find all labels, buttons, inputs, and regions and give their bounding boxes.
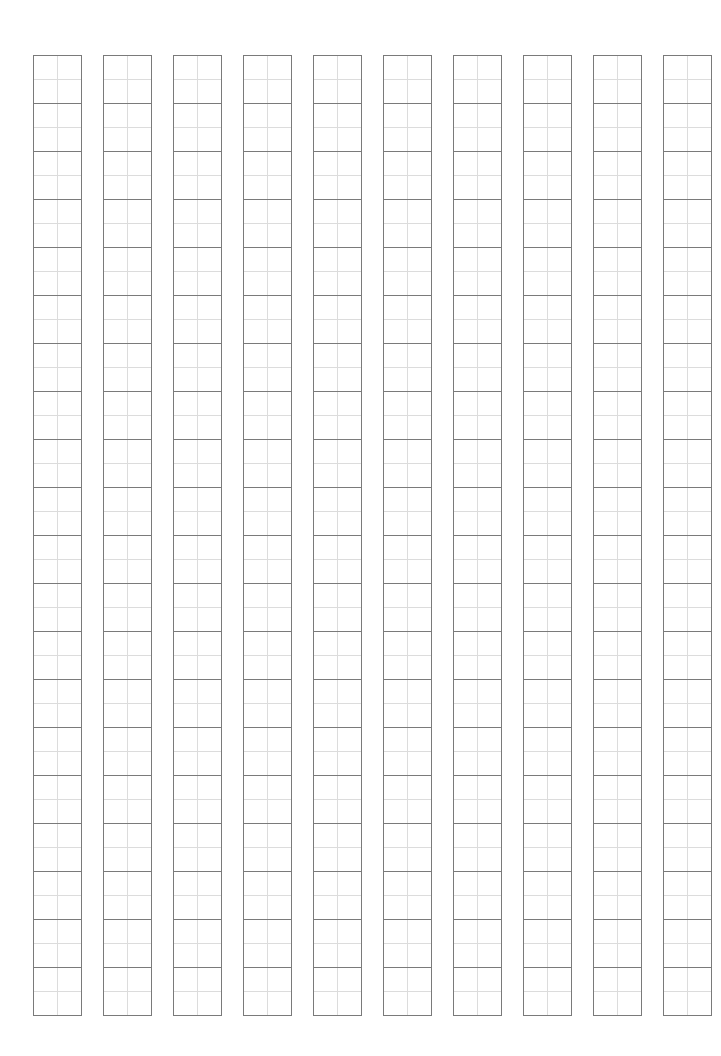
grid-cell — [593, 967, 642, 1016]
grid-cell — [523, 535, 572, 584]
grid-cell — [523, 343, 572, 392]
grid-cell — [383, 631, 432, 680]
grid-cell — [173, 631, 222, 680]
grid-cell — [173, 487, 222, 536]
grid-cell — [523, 871, 572, 920]
grid-cell — [173, 967, 222, 1016]
grid-cell — [383, 103, 432, 152]
grid-cell — [33, 199, 82, 248]
grid-cell — [383, 439, 432, 488]
grid-cell — [243, 247, 292, 296]
grid-cell — [593, 247, 642, 296]
grid-cell — [453, 823, 502, 872]
grid-cell — [663, 439, 712, 488]
grid-cell — [313, 679, 362, 728]
grid-cell — [453, 295, 502, 344]
grid-cell — [663, 679, 712, 728]
grid-cell — [103, 727, 152, 776]
grid-cell — [103, 679, 152, 728]
grid-cell — [383, 583, 432, 632]
grid-cell — [243, 295, 292, 344]
grid-cell — [663, 871, 712, 920]
grid-cell — [313, 583, 362, 632]
grid-cell — [593, 295, 642, 344]
grid-cell — [593, 487, 642, 536]
grid-cell — [523, 919, 572, 968]
grid-cell — [523, 823, 572, 872]
grid-cell — [383, 775, 432, 824]
grid-cell — [383, 679, 432, 728]
grid-column-5 — [313, 55, 361, 1016]
grid-cell — [243, 55, 292, 104]
grid-cell — [593, 823, 642, 872]
grid-cell — [593, 871, 642, 920]
grid-cell — [453, 487, 502, 536]
grid-cell — [313, 727, 362, 776]
grid-cell — [173, 55, 222, 104]
grid-cell — [173, 295, 222, 344]
grid-cell — [243, 631, 292, 680]
grid-cell — [103, 295, 152, 344]
grid-cell — [103, 55, 152, 104]
grid-cell — [523, 583, 572, 632]
grid-cell — [243, 583, 292, 632]
grid-cell — [593, 439, 642, 488]
grid-cell — [33, 439, 82, 488]
grid-cell — [243, 391, 292, 440]
grid-cell — [173, 919, 222, 968]
grid-cell — [243, 103, 292, 152]
grid-cell — [103, 919, 152, 968]
grid-cell — [383, 295, 432, 344]
grid-cell — [663, 103, 712, 152]
grid-cell — [523, 55, 572, 104]
grid-cell — [663, 343, 712, 392]
grid-cell — [33, 295, 82, 344]
grid-cell — [313, 919, 362, 968]
grid-cell — [453, 631, 502, 680]
grid-cell — [593, 919, 642, 968]
grid-column-10 — [663, 55, 711, 1016]
grid-cell — [243, 343, 292, 392]
grid-cell — [243, 199, 292, 248]
grid-cell — [243, 871, 292, 920]
grid-cell — [593, 151, 642, 200]
grid-cell — [453, 343, 502, 392]
grid-cell — [383, 823, 432, 872]
grid-cell — [173, 583, 222, 632]
grid-cell — [383, 343, 432, 392]
grid-cell — [523, 295, 572, 344]
grid-cell — [103, 343, 152, 392]
grid-cell — [313, 247, 362, 296]
grid-cell — [243, 439, 292, 488]
grid-cell — [663, 55, 712, 104]
grid-cell — [383, 919, 432, 968]
grid-cell — [173, 391, 222, 440]
grid-cell — [593, 631, 642, 680]
grid-column-9 — [593, 55, 641, 1016]
grid-cell — [383, 871, 432, 920]
grid-cell — [173, 247, 222, 296]
grid-cell — [453, 103, 502, 152]
grid-column-2 — [103, 55, 151, 1016]
grid-cell — [33, 919, 82, 968]
grid-cell — [523, 103, 572, 152]
grid-cell — [173, 199, 222, 248]
grid-cell — [453, 919, 502, 968]
grid-cell — [313, 871, 362, 920]
grid-cell — [523, 439, 572, 488]
grid-cell — [33, 391, 82, 440]
grid-cell — [33, 487, 82, 536]
grid-cell — [313, 967, 362, 1016]
grid-cell — [33, 679, 82, 728]
grid-cell — [593, 679, 642, 728]
grid-cell — [103, 199, 152, 248]
grid-cell — [663, 391, 712, 440]
grid-cell — [103, 247, 152, 296]
grid-cell — [453, 871, 502, 920]
grid-cell — [593, 103, 642, 152]
grid-cell — [663, 295, 712, 344]
grid-cell — [523, 487, 572, 536]
grid-cell — [453, 967, 502, 1016]
grid-cell — [173, 439, 222, 488]
grid-cell — [663, 823, 712, 872]
